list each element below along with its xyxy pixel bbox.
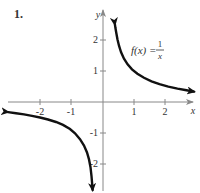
function-label-denominator: x: [157, 51, 162, 61]
x-tick-label: 1: [132, 106, 137, 117]
y-tick-label: 2: [93, 34, 98, 45]
x-tick-label: -1: [67, 106, 75, 117]
x-tick-label: -2: [36, 106, 44, 117]
x-tick-label: 2: [163, 106, 168, 117]
y-tick-label: -1: [90, 127, 98, 138]
y-axis-label: y: [95, 9, 101, 20]
x-axis-label: x: [190, 105, 196, 116]
function-label-lhs: f(x) =: [131, 44, 159, 57]
graph-canvas: -2 -1 1 2 2 1 -1 -2 x y 1. f(x) = 1 x: [0, 0, 200, 193]
curve-positive-branch: [115, 24, 194, 91]
function-label-numerator: 1: [158, 39, 163, 49]
curve-negative-branch: [8, 112, 93, 190]
problem-number: 1.: [14, 7, 23, 21]
y-tick-label: 1: [93, 65, 98, 76]
